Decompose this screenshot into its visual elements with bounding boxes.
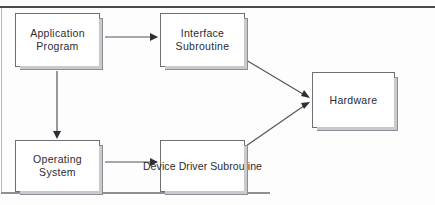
edge-application-to-interface xyxy=(105,33,158,41)
node-operating-system[interactable]: Operating System xyxy=(15,140,100,192)
edge-application-to-operating-system xyxy=(53,71,61,139)
node-interface-subroutine-label: Interface Subroutine xyxy=(175,27,231,53)
frame-rule-left xyxy=(1,8,2,194)
node-interface-subroutine[interactable]: Interface Subroutine xyxy=(160,13,245,67)
node-hardware[interactable]: Hardware xyxy=(312,72,395,128)
node-application-program-label: Application Program xyxy=(29,27,86,53)
node-device-driver-subroutine-label: Device Driver Subroutine xyxy=(142,160,263,173)
block-diagram: Application Program Interface Subroutine… xyxy=(0,0,435,205)
node-hardware-label: Hardware xyxy=(329,94,379,107)
edge-device-driver-to-hardware xyxy=(246,102,310,146)
node-operating-system-label: Operating System xyxy=(32,153,83,179)
node-device-driver-subroutine[interactable]: Device Driver Subroutine xyxy=(160,140,245,192)
node-application-program[interactable]: Application Program xyxy=(15,13,100,67)
frame-rule-top xyxy=(0,6,435,8)
edge-interface-to-hardware xyxy=(246,60,310,98)
